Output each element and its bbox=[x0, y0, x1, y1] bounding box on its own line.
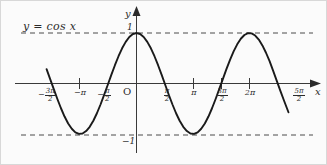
cosine-graph-figure: y = cos x y x 1 −1 O −3π2 −π −π2 π2 π 3π… bbox=[0, 0, 327, 165]
fraction-three-pi-over-two: 3π2 bbox=[216, 88, 227, 104]
y-tick-label-minus-one: −1 bbox=[122, 137, 135, 146]
fraction-three-pi-over-two: 3π2 bbox=[45, 88, 56, 104]
x-tick-label-neg-pi-over-two: −π2 bbox=[94, 88, 114, 104]
fraction-denominator: 2 bbox=[45, 96, 56, 103]
fraction-five-pi-over-two: 5π2 bbox=[293, 88, 304, 104]
fraction-denominator: 2 bbox=[293, 96, 304, 103]
fraction-denominator: 2 bbox=[164, 96, 171, 103]
x-tick-label-neg-three-pi-over-two: −3π2 bbox=[37, 88, 57, 104]
origin-label: O bbox=[123, 87, 131, 97]
y-axis-label: y bbox=[125, 9, 131, 19]
fraction-pi-over-two: π2 bbox=[164, 88, 171, 104]
equation-label: y = cos x bbox=[23, 21, 76, 32]
y-tick-label-one: 1 bbox=[127, 23, 133, 32]
x-tick-label-neg-pi: −π bbox=[70, 89, 90, 97]
fraction-denominator: 2 bbox=[104, 96, 111, 103]
x-axis-label: x bbox=[315, 87, 321, 97]
x-tick-label-five-pi-over-two: 5π2 bbox=[290, 88, 308, 104]
x-tick-label-three-pi-over-two: 3π2 bbox=[213, 88, 231, 104]
minus-sign: − bbox=[97, 91, 104, 99]
fraction-denominator: 2 bbox=[216, 96, 227, 103]
x-tick-label-pi-over-two: π2 bbox=[159, 88, 175, 104]
y-axis-arrow-icon bbox=[133, 6, 141, 16]
minus-sign: − bbox=[38, 91, 45, 99]
x-tick-label-pi: π bbox=[187, 89, 201, 97]
x-tick-label-two-pi: 2π bbox=[241, 89, 259, 97]
fraction-pi-over-two: π2 bbox=[104, 88, 111, 104]
